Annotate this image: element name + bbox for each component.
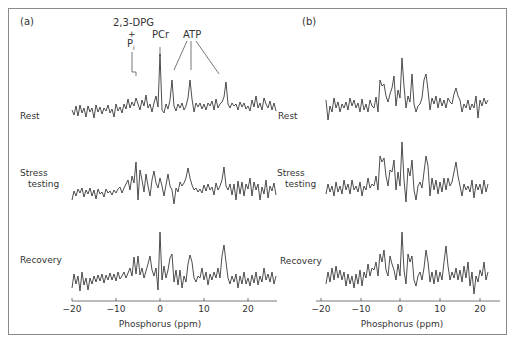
x-tick-a-neg10: −10 xyxy=(107,304,126,314)
x-axis-a-ticks xyxy=(72,298,248,301)
x-tick-b-10: 10 xyxy=(434,304,445,314)
x-tick-b-20: 20 xyxy=(474,304,485,314)
spectrum-a-stress xyxy=(72,162,276,204)
spectrum-b-rest xyxy=(326,58,488,120)
x-tick-a-20: 20 xyxy=(242,304,253,314)
x-tick-b-neg20: −20 xyxy=(312,304,331,314)
pi-marker-line xyxy=(132,52,136,76)
x-axis-title-a: Phosphorus (ppm) xyxy=(119,319,201,329)
spectrum-b-recovery xyxy=(326,232,488,294)
x-tick-a-neg20: −20 xyxy=(63,304,82,314)
x-tick-a-0: 0 xyxy=(157,304,163,314)
x-axis-title-b: Phosphorus (ppm) xyxy=(361,319,443,329)
spectrum-a-recovery xyxy=(72,232,276,291)
spectrum-b-stress xyxy=(326,142,488,202)
atp-marker-line-1 xyxy=(174,41,187,70)
atp-marker-line-3 xyxy=(196,41,219,74)
spectra-plot xyxy=(0,0,516,350)
x-tick-b-neg10: −10 xyxy=(352,304,371,314)
x-tick-a-10: 10 xyxy=(198,304,209,314)
x-tick-b-0: 0 xyxy=(397,304,403,314)
spectrum-a-rest xyxy=(72,54,276,118)
x-axis-b-ticks xyxy=(321,298,480,301)
